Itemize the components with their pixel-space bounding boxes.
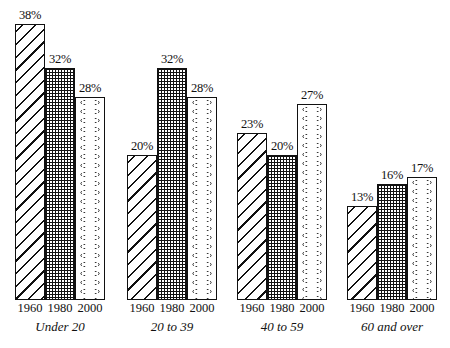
value-label: 32%: [152, 52, 192, 67]
bar-1980-under-20: [45, 68, 75, 300]
value-label: 38%: [10, 8, 50, 23]
year-label: 1960: [236, 301, 268, 316]
category-label: Under 20: [5, 319, 115, 335]
bar-2000-40-to-59: [297, 104, 327, 300]
value-label: 23%: [232, 117, 272, 132]
value-label: 28%: [70, 81, 110, 96]
bar-1980-20-to-39: [157, 68, 187, 300]
year-label: 1980: [376, 301, 408, 316]
category-label: 20 to 39: [117, 319, 227, 335]
value-label: 17%: [402, 161, 442, 176]
value-label: 20%: [262, 139, 302, 154]
value-label: 27%: [292, 88, 332, 103]
year-label: 1960: [126, 301, 158, 316]
bar-1960-20-to-39: [127, 155, 157, 300]
year-label: 2000: [406, 301, 438, 316]
bar-2000-20-to-39: [187, 97, 217, 300]
year-label: 1980: [266, 301, 298, 316]
year-label: 2000: [74, 301, 106, 316]
category-label: 60 and over: [337, 319, 447, 335]
value-label: 28%: [182, 81, 222, 96]
year-label: 2000: [296, 301, 328, 316]
value-label: 20%: [122, 139, 162, 154]
year-label: 1980: [44, 301, 76, 316]
bar-1960-40-to-59: [237, 133, 267, 300]
year-label: 1960: [14, 301, 46, 316]
bar-1960-60-and-over: [347, 206, 377, 300]
year-label: 1960: [346, 301, 378, 316]
bar-1980-60-and-over: [377, 184, 407, 300]
bar-2000-60-and-over: [407, 177, 437, 300]
grouped-bar-chart: 38%196032%198028%2000Under 2020%196032%1…: [0, 0, 450, 348]
bar-1980-40-to-59: [267, 155, 297, 300]
category-label: 40 to 59: [227, 319, 337, 335]
year-label: 2000: [186, 301, 218, 316]
year-label: 1980: [156, 301, 188, 316]
value-label: 32%: [40, 52, 80, 67]
bar-2000-under-20: [75, 97, 105, 300]
value-label: 13%: [342, 190, 382, 205]
